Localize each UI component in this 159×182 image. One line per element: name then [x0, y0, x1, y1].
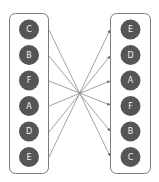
svg-text:E: E: [128, 25, 133, 34]
svg-text:B: B: [128, 127, 134, 136]
left-node-2: B: [19, 45, 39, 65]
right-node-6: C: [121, 147, 141, 167]
svg-text:F: F: [128, 102, 133, 111]
right-node-2: D: [121, 45, 141, 65]
left-node-3: F: [19, 71, 39, 91]
left-node-1: C: [19, 20, 39, 40]
left-node-5: D: [19, 122, 39, 142]
svg-text:A: A: [128, 76, 134, 85]
svg-text:C: C: [128, 153, 134, 162]
right-node-1: E: [121, 20, 141, 40]
right-node-3: A: [121, 71, 141, 91]
right-node-5: B: [121, 122, 141, 142]
left-node-4: A: [19, 96, 39, 116]
svg-text:D: D: [127, 51, 133, 60]
right-column: E D A F B C: [111, 14, 151, 174]
svg-text:A: A: [26, 102, 32, 111]
right-node-4: F: [121, 96, 141, 116]
svg-text:B: B: [26, 51, 32, 60]
edges: [49, 30, 110, 157]
svg-text:D: D: [26, 127, 32, 136]
svg-text:C: C: [26, 25, 32, 34]
mapping-diagram: C B F A D E E D: [0, 0, 159, 182]
svg-text:E: E: [26, 153, 31, 162]
left-column: C B F A D E: [10, 14, 49, 174]
left-node-6: E: [19, 147, 39, 167]
svg-text:F: F: [27, 76, 32, 85]
